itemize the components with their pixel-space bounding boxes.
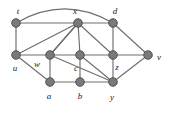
node-layer	[12, 19, 153, 87]
graph-node-label-x: x	[73, 7, 77, 16]
graph-edge-x-w	[50, 23, 78, 55]
graph-canvas	[0, 0, 170, 113]
graph-edge-t-d	[16, 9, 113, 23]
graph-node-z	[109, 51, 118, 60]
graph-node-y	[109, 78, 118, 87]
graph-node-label-t: t	[17, 7, 20, 16]
graph-edge-c-y	[80, 55, 113, 82]
graph-node-b	[76, 78, 85, 87]
graph-node-label-v: v	[157, 53, 161, 62]
graph-node-c	[76, 51, 85, 60]
graph-edge-c-x	[78, 23, 80, 55]
graph-node-label-c: c	[74, 64, 78, 73]
graph-node-label-y: y	[110, 93, 114, 102]
graph-edge-u-x	[16, 23, 78, 55]
graph-node-label-w: w	[34, 60, 40, 69]
edge-layer	[16, 9, 148, 82]
graph-edge-d-v	[113, 23, 148, 55]
graph-node-a	[46, 78, 55, 87]
graph-node-label-a: a	[47, 92, 52, 101]
graph-node-label-z: z	[115, 63, 119, 72]
graph-node-t	[12, 19, 21, 28]
graph-node-d	[109, 19, 118, 28]
graph-node-label-b: b	[78, 92, 83, 101]
graph-node-label-u: u	[13, 64, 18, 73]
graph-node-v	[144, 51, 153, 60]
graph-edge-x-z	[78, 23, 113, 55]
graph-figure: txduwczvaby	[0, 0, 170, 113]
graph-node-w	[46, 51, 55, 60]
graph-node-label-d: d	[113, 7, 118, 16]
graph-node-x	[74, 19, 83, 28]
graph-node-u	[12, 51, 21, 60]
